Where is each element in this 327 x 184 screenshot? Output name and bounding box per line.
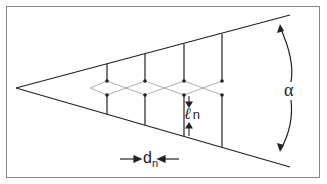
spacing-subscript: n	[152, 157, 158, 169]
spacing-symbol: d	[143, 149, 152, 166]
length-label: ℓn	[184, 105, 200, 123]
alpha-label: α	[284, 80, 293, 101]
length-symbol: ℓ	[184, 105, 191, 122]
cone-top-edge	[16, 15, 290, 88]
length-subscript: n	[193, 107, 200, 122]
cone-diagram	[0, 0, 327, 184]
spacing-label: dn	[143, 149, 158, 167]
